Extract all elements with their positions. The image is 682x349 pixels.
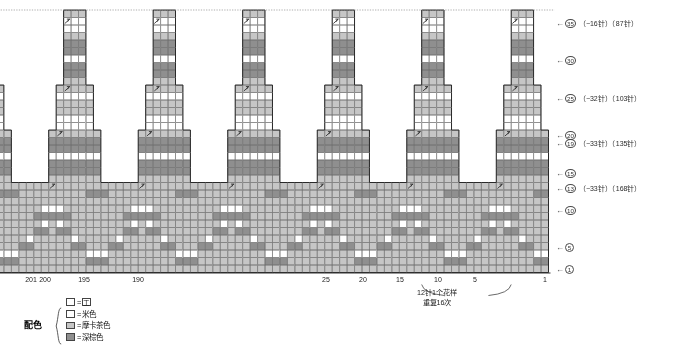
equals-sign: = bbox=[77, 309, 81, 320]
left-arrow-icon: ← bbox=[556, 206, 564, 215]
column-label: 20 bbox=[359, 276, 367, 283]
left-arrow-icon: ← bbox=[556, 139, 564, 148]
row-note: （−33针）（135针） bbox=[579, 139, 642, 148]
row-number-badge: 10 bbox=[565, 206, 576, 215]
legend-brace bbox=[55, 307, 62, 345]
row-label-25: ←25（−32针）（103针） bbox=[556, 93, 641, 103]
legend-color-row-2: =深棕色 bbox=[66, 331, 103, 343]
column-label: 25 bbox=[322, 276, 330, 283]
legend-color-row-1: =摩卡茶色 bbox=[66, 320, 110, 332]
left-arrow-icon: ← bbox=[556, 243, 564, 252]
column-label: 1 bbox=[543, 276, 547, 283]
row-note: （−32针）（103针） bbox=[579, 94, 642, 103]
legend-swatch bbox=[66, 322, 75, 330]
row-label-5: ←5 bbox=[556, 242, 574, 252]
column-label: 190 bbox=[132, 276, 144, 283]
equals-sign: = bbox=[77, 332, 81, 343]
row-number-badge: 13 bbox=[565, 184, 576, 193]
legend-swatch bbox=[66, 298, 75, 306]
row-number-badge: 5 bbox=[565, 243, 574, 252]
row-number-badge: 1 bbox=[565, 265, 574, 274]
equals-sign: = bbox=[77, 297, 81, 308]
legend-label: 米色 bbox=[82, 309, 96, 320]
left-arrow-icon: ← bbox=[556, 19, 564, 28]
row-number-badge: 25 bbox=[565, 94, 576, 103]
row-label-1: ←1 bbox=[556, 264, 574, 274]
row-label-10: ←10 bbox=[556, 205, 576, 215]
legend-swatch bbox=[66, 310, 75, 318]
row-label-35: ←35（−16针）（87针） bbox=[556, 18, 638, 28]
column-label: 195 bbox=[78, 276, 90, 283]
left-arrow-icon: ← bbox=[556, 94, 564, 103]
legend-swatch bbox=[66, 333, 75, 341]
column-label: 201 bbox=[25, 276, 37, 283]
row-number-badge: 30 bbox=[565, 56, 576, 65]
row-number-badge: 35 bbox=[565, 19, 576, 28]
equals-sign: = bbox=[77, 320, 81, 331]
row-note: （−33针）（168针） bbox=[579, 184, 642, 193]
left-arrow-icon: ← bbox=[556, 265, 564, 274]
legend-label: 摩卡茶色 bbox=[82, 320, 110, 331]
left-arrow-icon: ← bbox=[556, 56, 564, 65]
repeat-annotation: 12针1个花样重复16次 bbox=[417, 288, 457, 308]
row-label-19: ←19（−33针）（135针） bbox=[556, 138, 641, 148]
column-label: 5 bbox=[473, 276, 477, 283]
knit-symbol-icon: 工 bbox=[82, 298, 91, 306]
row-number-badge: 19 bbox=[565, 139, 576, 148]
legend-color-row-0: =米色 bbox=[66, 308, 96, 320]
legend-symbol-row: =工 bbox=[66, 296, 91, 308]
row-label-30: ←30 bbox=[556, 55, 576, 65]
legend-title: 配色 bbox=[24, 318, 42, 331]
column-label: 200 bbox=[39, 276, 51, 283]
left-arrow-icon: ← bbox=[556, 169, 564, 178]
row-number-badge: 15 bbox=[565, 169, 576, 178]
row-note: （−16针）（87针） bbox=[579, 19, 638, 28]
repeat-line-1: 12针1个花样 bbox=[417, 288, 457, 298]
left-arrow-icon: ← bbox=[556, 184, 564, 193]
row-label-15: ←15 bbox=[556, 168, 576, 178]
row-label-13: ←13（−33针）（168针） bbox=[556, 183, 641, 193]
legend-label: 深棕色 bbox=[82, 332, 103, 343]
knitting-chart: ←35（−16针）（87针）←30←25（−32针）（103针）←20←19（−… bbox=[0, 0, 682, 349]
column-label: 10 bbox=[434, 276, 442, 283]
legend: 配色 =工=米色=摩卡茶色=深棕色 bbox=[24, 296, 284, 348]
repeat-line-2: 重复16次 bbox=[417, 298, 457, 308]
column-label: 15 bbox=[396, 276, 404, 283]
